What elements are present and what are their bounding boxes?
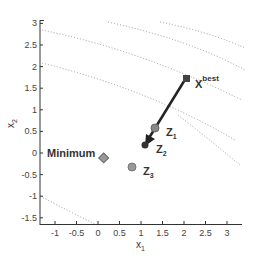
y-tick-label: 1.5 bbox=[24, 83, 37, 93]
y-tick-label: -0.5 bbox=[21, 170, 37, 180]
y-tick-label: -1 bbox=[29, 191, 37, 201]
x-tick-label: 1.5 bbox=[156, 228, 169, 238]
contour-lines bbox=[40, 22, 245, 224]
x-tick-label: -1 bbox=[51, 228, 59, 238]
x-tick-label: 1 bbox=[138, 228, 143, 238]
z3-label: Z3 bbox=[143, 165, 154, 179]
y-tick-label: 3 bbox=[32, 18, 37, 28]
y-tick-label: 2.5 bbox=[24, 40, 37, 50]
x-axis-label: x1 bbox=[136, 239, 145, 252]
y-tick-label: 0.5 bbox=[24, 126, 37, 136]
xbest-marker bbox=[183, 75, 190, 82]
x-tick-label: 3 bbox=[224, 228, 229, 238]
x-axis-ticks: -1-0.500.511.522.53 bbox=[51, 221, 230, 238]
y-tick-label: 2 bbox=[32, 62, 37, 72]
z2-label: Z2 bbox=[156, 143, 167, 157]
x-tick-label: 2.5 bbox=[199, 228, 212, 238]
z3-marker bbox=[128, 163, 136, 171]
y-axis-label: x2 bbox=[5, 119, 18, 128]
z2-marker bbox=[142, 142, 149, 149]
minimum-marker bbox=[99, 153, 109, 163]
x-tick-label: 2 bbox=[181, 228, 186, 238]
x-tick-label: 0 bbox=[95, 228, 100, 238]
y-tick-label: 1 bbox=[32, 105, 37, 115]
chart: -1-0.500.511.522.53 32.521.510.50-0.5-1-… bbox=[0, 0, 257, 263]
y-tick-label: -1.5 bbox=[21, 213, 37, 223]
z1-marker bbox=[151, 124, 159, 132]
y-tick-label: 0 bbox=[32, 148, 37, 158]
x-tick-label: 0.5 bbox=[113, 228, 126, 238]
minimum-label: Minimum bbox=[47, 147, 95, 159]
z1-label: Z1 bbox=[166, 126, 177, 140]
x-tick-label: -0.5 bbox=[69, 228, 85, 238]
axes bbox=[40, 20, 242, 225]
